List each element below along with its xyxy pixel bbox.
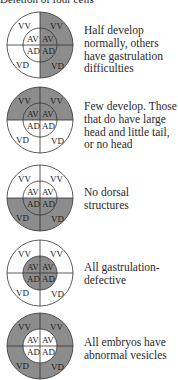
cell-label-av-right: AV <box>42 187 54 197</box>
embryo-diagram-inner-cells-deleted: VV VV AV AV AD AD VD VD <box>6 239 74 307</box>
cell-label-ad-left: AD <box>27 46 40 56</box>
cell-label-ad-right: AD <box>42 274 55 284</box>
cell-label-vv-left: VV <box>18 322 31 332</box>
cell-label-ad-left: AD <box>27 121 40 131</box>
cell-label-ad-right: AD <box>42 347 55 357</box>
embryo-diagram-right-half-deleted: VV VV AV AV AD AD VD VD <box>6 11 74 79</box>
cell-label-vv-right: VV <box>50 21 63 31</box>
cell-label-av-right: AV <box>42 34 54 44</box>
embryo-diagram-outer-cells-deleted: VV VV AV AV AD AD VD VD <box>6 312 74 380</box>
cell-label-ad-right: AD <box>42 46 55 56</box>
cell-label-av-left: AV <box>27 262 39 272</box>
cell-label-av-left: AV <box>27 109 39 119</box>
cell-label-vd-left: VD <box>16 361 29 371</box>
figure-header: Deletion of four cells <box>0 0 94 6</box>
cell-label-av-right: AV <box>42 262 54 272</box>
cell-label-ad-left: AD <box>27 199 40 209</box>
cell-label-av-left: AV <box>27 187 39 197</box>
cell-label-vv-right: VV <box>50 322 63 332</box>
cell-label-vv-right: VV <box>50 249 63 259</box>
result-description: All gastrulation- defective <box>84 261 178 287</box>
cell-label-vv-left: VV <box>18 96 31 106</box>
cell-label-av-right: AV <box>42 335 54 345</box>
cell-label-ad-left: AD <box>27 347 40 357</box>
cell-label-ad-right: AD <box>42 199 55 209</box>
cell-label-vd-right: VD <box>51 61 64 71</box>
cell-label-vd-right: VD <box>51 362 64 372</box>
cell-label-ad-right: AD <box>42 121 55 131</box>
cell-label-av-left: AV <box>27 34 39 44</box>
cell-label-ad-left: AD <box>27 274 40 284</box>
cell-label-vv-right: VV <box>50 96 63 106</box>
cell-label-vd-left: VD <box>16 135 29 145</box>
result-description: Half develop normally, others have gastr… <box>84 24 178 75</box>
cell-label-vv-left: VV <box>18 249 31 259</box>
cell-label-vd-right: VD <box>51 214 64 224</box>
result-description: No dorsal structures <box>84 186 178 212</box>
embryo-diagram-top-half-deleted: VV VV AV AV AD AD VD VD <box>6 86 74 154</box>
cell-label-vd-left: VD <box>16 213 29 223</box>
cell-label-av-left: AV <box>27 335 39 345</box>
cell-label-vd-right: VD <box>51 289 64 299</box>
cell-label-vd-left: VD <box>16 288 29 298</box>
embryo-diagram-bottom-half-deleted: VV VV AV AV AD AD VD VD <box>6 164 74 232</box>
cell-label-vd-right: VD <box>51 136 64 146</box>
cell-label-av-right: AV <box>42 109 54 119</box>
cell-label-vv-left: VV <box>18 174 31 184</box>
result-description: Few develop. Those that do have large he… <box>84 100 178 151</box>
cell-label-vv-right: VV <box>50 174 63 184</box>
cell-label-vv-left: VV <box>18 21 31 31</box>
result-description: All embryos have abnormal vesicles <box>84 336 178 362</box>
cell-label-vd-left: VD <box>16 60 29 70</box>
